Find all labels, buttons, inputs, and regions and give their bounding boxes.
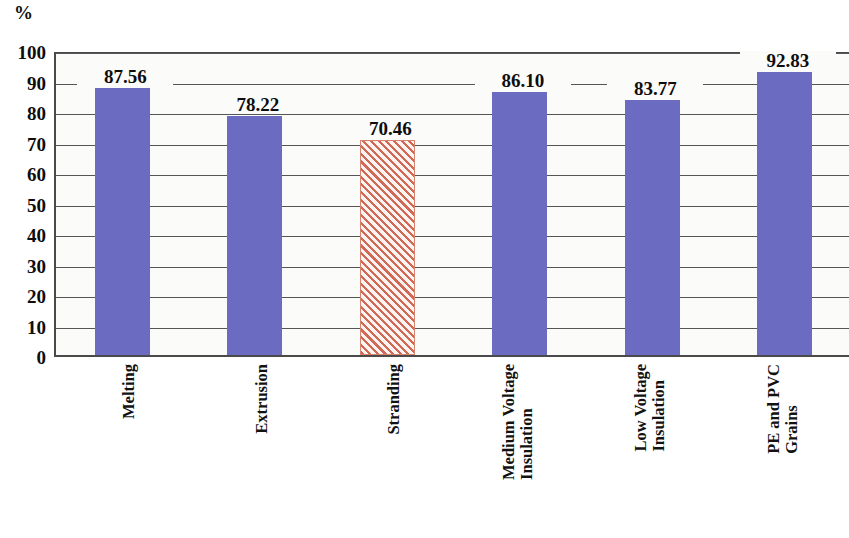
y-tick-label: 10 [0,318,46,337]
x-axis-label-low-voltage-insulation: Low VoltageInsulation [584,360,717,535]
x-axis-label-line: Low Voltage [632,364,650,452]
x-axis-label-melting: Melting [54,360,187,535]
gridline-40 [56,236,849,237]
bar[interactable] [360,140,415,355]
gridline-20 [56,297,849,298]
gridline-50 [56,206,849,207]
y-axis-tick-labels: 1009080706050403020100 [0,0,49,538]
y-tick-label: 20 [0,287,46,306]
gridline-60 [56,175,849,176]
x-axis-label-extrusion: Extrusion [187,360,320,535]
y-tick-label: 40 [0,226,46,245]
x-axis-label-line: Extrusion [253,364,271,434]
bar-chart: % 1009080706050403020100 87.5678.2270.46… [0,0,849,538]
y-tick-label: 60 [0,165,46,184]
bar-value-label: 70.46 [342,119,438,138]
y-tick-label: 30 [0,257,46,276]
x-axis-label-line: Stranding [385,364,403,435]
bar-value-label: 86.10 [475,71,571,90]
x-axis-label-medium-voltage-insulation: Medium VoltageInsulation [452,360,585,535]
x-axis-label-pe-and-pvc-grains: PE and PVCGrains [717,360,849,535]
y-tick-label: 100 [0,43,46,62]
gridline-70 [56,145,849,146]
bar-value-label: 87.56 [77,67,173,86]
bar[interactable] [492,92,547,355]
x-axis-label-line: Melting [120,364,138,419]
y-tick-label: 0 [0,348,46,367]
y-tick-label: 90 [0,74,46,93]
y-tick-label: 70 [0,135,46,154]
gridline-30 [56,267,849,268]
bar[interactable] [757,72,812,355]
gridline-90 [56,84,849,85]
x-axis-category-labels: MeltingExtrusionStrandingMedium VoltageI… [54,360,849,538]
gridline-100 [56,53,849,54]
y-tick-label: 80 [0,104,46,123]
gridline-10 [56,328,849,329]
bar[interactable] [625,100,680,355]
x-axis-label-line: PE and PVC [764,364,782,454]
bar-value-label: 92.83 [740,51,836,70]
bar[interactable] [227,116,282,355]
bar-value-label: 78.22 [210,95,306,114]
x-axis-label-line: Medium Voltage [499,364,517,480]
plot-area: 87.5678.2270.4686.1083.7792.83 [54,52,849,357]
y-tick-label: 50 [0,196,46,215]
x-axis-label-stranding: Stranding [319,360,452,535]
bar-value-label: 83.77 [607,79,703,98]
x-axis-label-line: Insulation [518,364,536,480]
x-axis-label-line: Insulation [650,364,668,452]
x-axis-label-line: Grains [783,364,801,454]
gridline-80 [56,114,849,115]
bar[interactable] [95,88,150,355]
